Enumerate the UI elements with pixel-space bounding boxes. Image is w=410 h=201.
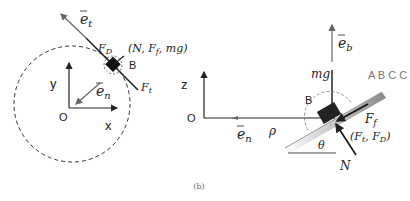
y-axis-label: y <box>50 76 57 91</box>
normal-vector-right-label: en <box>237 126 252 144</box>
radius-label: ρ <box>268 124 276 138</box>
normal-force-label: N <box>339 159 351 173</box>
body-label-right: B <box>305 94 312 106</box>
normal-vector-right <box>232 116 238 120</box>
figure-caption: (b) <box>193 182 204 191</box>
tangent-vector-label: et <box>80 11 93 29</box>
friction-force-label: Ff <box>364 112 378 128</box>
gravity-label: mg <box>311 67 330 81</box>
z-axis-label: z <box>181 77 188 92</box>
normal-vector-label: en <box>96 83 111 101</box>
watermark-text: A B C C <box>368 69 407 81</box>
origin-label-right: O <box>187 112 196 124</box>
thrust-force-label: Ft <box>140 81 153 95</box>
binormal-vector-label: eb <box>338 35 353 53</box>
x-axis-label: x <box>105 118 112 133</box>
drag-force-label: FD <box>97 42 113 56</box>
left-panel: y x O et en FD Ft (N, Ff, mg) B <box>14 11 188 162</box>
body-label: B <box>129 59 136 71</box>
angle-label: θ <box>318 139 325 152</box>
free-body-diagram: y x O et en FD Ft (N, Ff, mg) B z O en <box>0 0 410 201</box>
out-of-plane-forces-label: (N, Ff, mg) <box>128 42 188 56</box>
friction-force <box>337 104 368 121</box>
in-plane-forces-label: (Ft, FD) <box>350 130 391 144</box>
right-panel: z O en ρ eb mg θ B Ff (Ft, FD) N <box>181 25 407 173</box>
origin-label: O <box>59 111 68 123</box>
